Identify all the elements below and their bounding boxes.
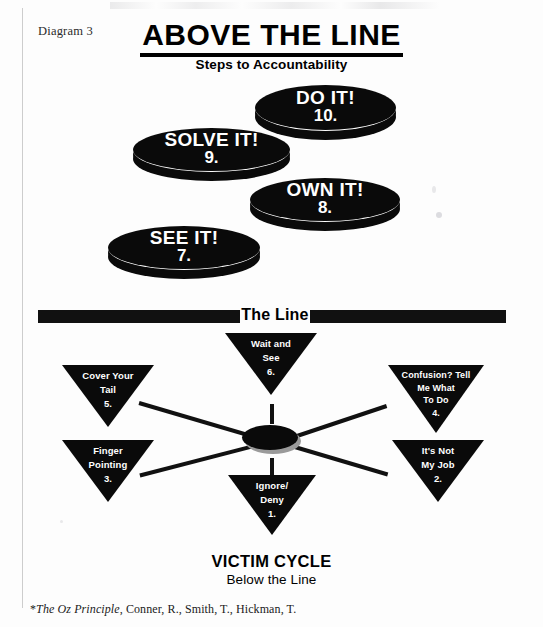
step-disc-own-it: OWN IT! 8. [250, 178, 400, 222]
spoke-to-cover-your-tail [138, 401, 258, 440]
source-citation: *The Oz Principle, Conner, R., Smith, T.… [30, 602, 296, 617]
step-number: 8. [318, 199, 332, 217]
scan-speck [436, 212, 442, 218]
step-number: 10. [314, 107, 338, 125]
citation-authors: , Conner, R., Smith, T., Hickman, T. [120, 602, 297, 616]
victim-node-text: Finger Pointing 3. [62, 444, 154, 485]
page-subtitle: Steps to Accountability [0, 57, 543, 72]
spoke-to-confusion [287, 404, 387, 441]
victim-node-its-not-my-job: It's Not My Job 2. [392, 440, 484, 502]
victim-node-number: 4. [388, 407, 484, 420]
victim-node-line1: Cover Your [62, 369, 154, 383]
diagram-page: Diagram 3 ABOVE THE LINE Steps to Accoun… [0, 0, 543, 627]
victim-node-line2: My Job [392, 458, 484, 472]
step-label: SEE IT! [150, 228, 219, 248]
disc-face: OWN IT! 8. [250, 178, 400, 222]
victim-node-text: It's Not My Job 2. [392, 444, 484, 485]
victim-node-line1: Wait and [225, 337, 317, 351]
scan-speck [60, 520, 63, 523]
victim-node-ignore-deny: Ignore/ Deny 1. [228, 475, 316, 535]
victim-node-line2: Me What [388, 382, 484, 395]
step-disc-do-it: DO IT! 10. [255, 85, 396, 131]
scan-artifact-top [110, 2, 440, 9]
below-the-line-caption: Below the Line [0, 572, 543, 587]
step-disc-see-it: SEE IT! 7. [108, 226, 260, 270]
spoke-to-finger-pointing [139, 443, 258, 477]
citation-title: The Oz Principle [36, 602, 120, 616]
step-disc-solve-it: SOLVE IT! 9. [133, 128, 290, 172]
victim-node-line1: Finger [62, 444, 154, 458]
victim-cycle-title: VICTIM CYCLE [0, 552, 543, 571]
victim-node-line1: It's Not [392, 444, 484, 458]
victim-node-number: 1. [228, 507, 316, 521]
cycle-hub [242, 425, 298, 450]
step-label: SOLVE IT! [164, 130, 258, 150]
page-left-rule [22, 8, 23, 608]
victim-node-wait-and-see: Wait and See 6. [225, 333, 317, 395]
victim-node-line2: See [225, 351, 317, 365]
step-label: DO IT! [296, 88, 355, 108]
victim-node-cover-your-tail: Cover Your Tail 5. [62, 365, 154, 427]
the-line-bar-right [310, 310, 506, 323]
scan-speck [432, 186, 436, 193]
disc-face: DO IT! 10. [255, 85, 396, 131]
victim-node-line1: Ignore/ [228, 479, 316, 493]
victim-node-number: 3. [62, 472, 154, 486]
spoke-to-wait-and-see [270, 404, 274, 424]
step-number: 9. [204, 149, 218, 167]
victim-node-number: 2. [392, 472, 484, 486]
spoke-to-its-not-my-job [287, 443, 388, 476]
step-label: OWN IT! [286, 180, 363, 200]
victim-node-text: Wait and See 6. [225, 337, 317, 378]
victim-node-line2: Tail [62, 383, 154, 397]
victim-node-finger-pointing: Finger Pointing 3. [62, 440, 154, 502]
step-number: 7. [177, 247, 191, 265]
victim-node-text: Ignore/ Deny 1. [228, 479, 316, 520]
the-line-divider: The Line [38, 310, 506, 323]
victim-node-line2: Pointing [62, 458, 154, 472]
the-line-label: The Line [240, 306, 310, 324]
victim-node-line3: To Do [388, 394, 484, 407]
victim-node-text: Confusion? Tell Me What To Do 4. [388, 369, 484, 419]
victim-node-number: 5. [62, 397, 154, 411]
victim-node-line2: Deny [228, 493, 316, 507]
page-title-text: ABOVE THE LINE [140, 18, 403, 57]
page-title: ABOVE THE LINE [0, 18, 543, 57]
disc-face: SEE IT! 7. [108, 226, 260, 270]
disc-face: SOLVE IT! 9. [133, 128, 290, 172]
victim-node-confusion: Confusion? Tell Me What To Do 4. [388, 365, 484, 433]
victim-node-text: Cover Your Tail 5. [62, 369, 154, 410]
the-line-bar-left [38, 310, 240, 323]
victim-node-line1: Confusion? Tell [388, 369, 484, 382]
victim-node-number: 6. [225, 365, 317, 379]
